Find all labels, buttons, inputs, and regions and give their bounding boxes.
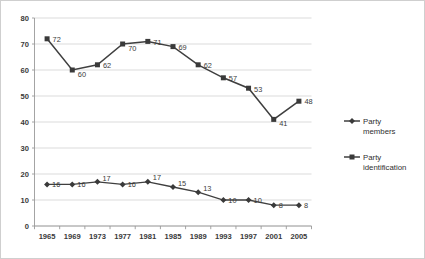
data-point-marker: [45, 36, 50, 41]
data-point-marker: [196, 62, 201, 67]
y-axis-tick-label: 40: [21, 118, 29, 127]
data-label: 48: [304, 97, 312, 106]
data-point-marker: [44, 181, 50, 187]
x-axis-tick-label: 1989: [190, 232, 207, 241]
data-point-marker: [69, 181, 75, 187]
data-point-marker: [246, 86, 251, 91]
x-axis-tick-label: 1977: [114, 232, 131, 241]
data-point-marker: [95, 62, 100, 67]
data-label: 17: [153, 173, 161, 182]
data-label: 71: [153, 38, 161, 47]
data-point-marker: [220, 197, 226, 203]
data-point-marker: [170, 184, 176, 190]
data-label: 69: [179, 43, 187, 52]
x-axis-tick-label: 2005: [290, 232, 308, 241]
data-labels-party-identification: 7260627071696257534148: [53, 35, 313, 129]
y-axis: 01020304050607080: [21, 14, 35, 231]
data-point-marker: [296, 99, 301, 104]
y-axis-tick-label: 70: [21, 40, 29, 49]
legend-entry-label: Party: [363, 117, 381, 126]
y-axis-tick-label: 10: [21, 196, 29, 205]
data-point-marker: [70, 68, 75, 73]
x-axis-tick-label: 1981: [139, 232, 157, 241]
x-axis-tick-label: 1965: [39, 232, 57, 241]
data-label: 16: [52, 180, 60, 189]
line-chart: 01020304050607080 1965196919731977198119…: [0, 0, 425, 259]
data-point-marker: [221, 75, 226, 80]
y-axis-tick-label: 80: [21, 14, 29, 23]
data-label: 72: [53, 35, 61, 44]
data-label: 60: [78, 70, 86, 79]
data-label: 13: [203, 184, 211, 193]
y-axis-tick-label: 20: [21, 170, 29, 179]
y-axis-tick-label: 30: [21, 144, 29, 153]
chart-canvas: 01020304050607080 1965196919731977198119…: [1, 1, 425, 259]
data-label: 8: [304, 201, 308, 210]
data-point-marker: [145, 179, 151, 185]
gridlines: [35, 18, 312, 226]
x-axis: 1965196919731977198119851989199319972001…: [35, 226, 312, 241]
data-point-marker: [271, 117, 276, 122]
y-axis-tick-label: 60: [21, 66, 29, 75]
data-label: 53: [254, 85, 262, 94]
legend-marker-square: [350, 155, 355, 160]
data-point-marker: [246, 197, 252, 203]
data-point-marker: [195, 189, 201, 195]
data-label: 57: [229, 74, 237, 83]
data-label: 17: [102, 174, 110, 183]
data-point-marker: [296, 202, 302, 208]
legend-entry-label: Party: [363, 153, 381, 162]
x-axis-tick-label: 1997: [240, 232, 257, 241]
x-axis-tick-label: 1973: [89, 232, 106, 241]
legend-entry-label: members: [363, 127, 396, 136]
data-point-marker: [171, 44, 176, 49]
data-label: 10: [254, 196, 262, 205]
x-axis-tick-label: 1993: [215, 232, 232, 241]
y-axis-tick-label: 0: [25, 222, 29, 231]
series-party-identification: [45, 36, 302, 122]
cropped-caption: [7, 250, 307, 258]
chart-legend: PartymembersPartyidentification: [344, 117, 406, 172]
data-label: 16: [77, 180, 85, 189]
data-point-marker: [120, 181, 126, 187]
legend-entry-label: identification: [363, 163, 406, 172]
data-point-marker: [271, 202, 277, 208]
data-label: 62: [204, 61, 212, 70]
data-point-marker: [120, 42, 125, 47]
x-axis-tick-label: 1985: [165, 232, 183, 241]
data-label: 16: [128, 180, 136, 189]
y-axis-tick-label: 50: [21, 92, 29, 101]
data-label: 62: [103, 61, 111, 70]
x-axis-tick-label: 2001: [265, 232, 283, 241]
x-axis-tick-label: 1969: [64, 232, 81, 241]
data-point-marker: [145, 39, 150, 44]
data-point-marker: [94, 179, 100, 185]
data-label: 15: [178, 179, 186, 188]
data-label: 8: [279, 201, 283, 210]
legend-marker-diamond: [349, 118, 355, 124]
data-label: 41: [279, 119, 287, 128]
data-label: 70: [128, 44, 136, 53]
data-label: 10: [228, 196, 236, 205]
